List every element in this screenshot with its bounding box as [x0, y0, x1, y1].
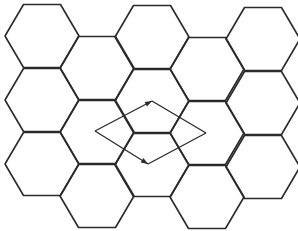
rhombus-edge	[152, 101, 206, 133]
hexagon-cell	[5, 133, 79, 196]
hexagon-cell	[170, 166, 244, 229]
honeycomb-grid	[5, 5, 298, 229]
lattice-figure	[0, 0, 298, 231]
lattice-vector-a1	[95, 101, 152, 131]
hexagon-cell	[60, 37, 134, 100]
hexagon-cell	[115, 6, 189, 69]
hexagon-cell	[5, 5, 79, 68]
hexagonal-lattice-diagram	[0, 0, 298, 231]
hexagon-cell	[60, 165, 134, 228]
hexagon-cell	[226, 8, 298, 71]
rhombus-edge	[148, 133, 206, 164]
arrowhead-icon	[141, 158, 148, 164]
hexagon-cell	[5, 69, 79, 132]
lattice-vector-a2	[95, 131, 148, 164]
hexagon-cell	[115, 134, 189, 197]
arrowhead-icon	[145, 101, 152, 107]
